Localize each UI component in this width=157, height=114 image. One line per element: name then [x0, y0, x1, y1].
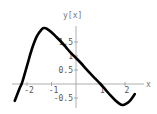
y-tick-label: -0.5	[54, 94, 73, 103]
y-tick-label: 0.5	[59, 66, 74, 75]
plot: -2-112 -0.50.511.5 x y[x]	[0, 0, 157, 114]
y-axis-label: y[x]	[63, 11, 82, 20]
x-axis-label: x	[146, 80, 151, 89]
x-tick-label: 2	[125, 86, 130, 95]
x-tick-label: -2	[24, 86, 34, 95]
